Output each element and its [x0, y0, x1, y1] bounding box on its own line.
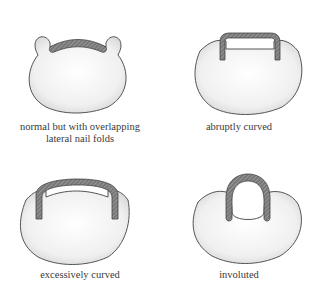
caption-line-1: abruptly curved — [160, 121, 318, 133]
nail-illustration-excessively-curved — [14, 175, 134, 270]
nail-illustration-involuted — [188, 172, 308, 267]
caption-line-2: lateral nail folds — [0, 133, 160, 145]
caption-abruptly-curved: abruptly curved — [160, 121, 318, 133]
caption-normal-overlapping: normal but with overlapping lateral nail… — [0, 121, 160, 145]
caption-line-1: excessively curved — [0, 269, 160, 281]
caption-excessively-curved: excessively curved — [0, 269, 160, 281]
caption-involuted: involuted — [160, 269, 318, 281]
nail-illustration-abruptly-curved — [190, 25, 305, 120]
caption-line-1: involuted — [160, 269, 318, 281]
nail-illustration-normal-overlapping — [18, 25, 133, 115]
caption-line-1: normal but with overlapping — [0, 121, 160, 133]
